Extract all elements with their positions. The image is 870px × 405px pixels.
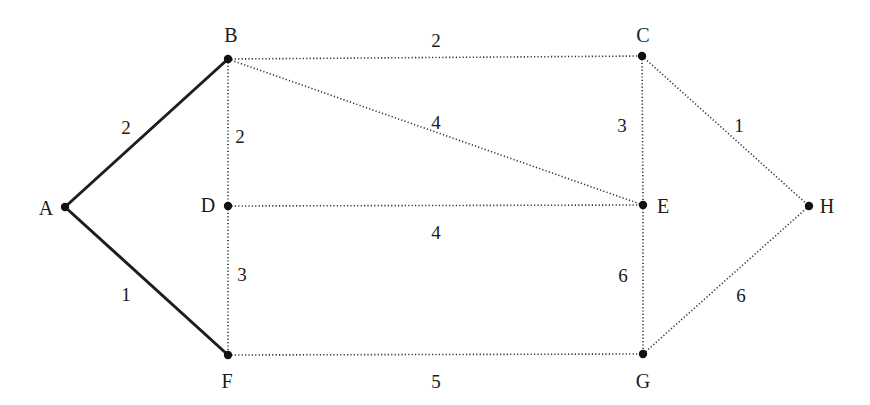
node-g-dot (639, 350, 647, 358)
edge-weight-d-f: 3 (237, 264, 247, 285)
edge-d-e (228, 205, 643, 206)
edge-a-f (65, 207, 228, 355)
edge-f-g (228, 354, 643, 355)
node-h-dot (805, 202, 813, 210)
edge-b-c (228, 56, 642, 59)
edge-c-e (642, 56, 643, 205)
edge-weight-d-e: 4 (431, 222, 441, 243)
node-b-label: B (224, 24, 237, 46)
edge-weight-c-e: 3 (617, 115, 627, 136)
node-d-dot (224, 202, 232, 210)
edge-h-g (643, 206, 809, 354)
edges-layer (65, 56, 809, 355)
edge-weight-f-g: 5 (431, 371, 441, 392)
node-f-label: F (221, 370, 232, 392)
node-h-label: H (820, 195, 834, 217)
edge-weight-c-h: 1 (734, 115, 744, 136)
edge-weight-b-e: 4 (431, 112, 441, 133)
node-c-label: C (636, 24, 649, 46)
node-c-dot (638, 52, 646, 60)
edge-weight-b-c: 2 (431, 30, 441, 51)
node-b-dot (224, 55, 232, 63)
node-e-dot (639, 201, 647, 209)
weighted-graph-diagram: 212243143665 ABCDEFGH (0, 0, 870, 405)
node-g-label: G (636, 370, 650, 392)
edge-weight-a-f: 1 (121, 284, 131, 305)
node-f-dot (224, 351, 232, 359)
edge-c-h (642, 56, 809, 206)
edge-weight-b-d: 2 (235, 126, 245, 147)
edge-weight-a-b: 2 (121, 117, 131, 138)
edge-weight-h-g: 6 (736, 285, 746, 306)
node-a-dot (61, 203, 69, 211)
node-a-label: A (39, 197, 54, 219)
edge-weight-e-g: 6 (618, 265, 628, 286)
nodes-layer: ABCDEFGH (39, 24, 834, 392)
edge-a-b (65, 59, 228, 207)
node-e-label: E (657, 195, 669, 217)
node-d-label: D (201, 194, 215, 216)
